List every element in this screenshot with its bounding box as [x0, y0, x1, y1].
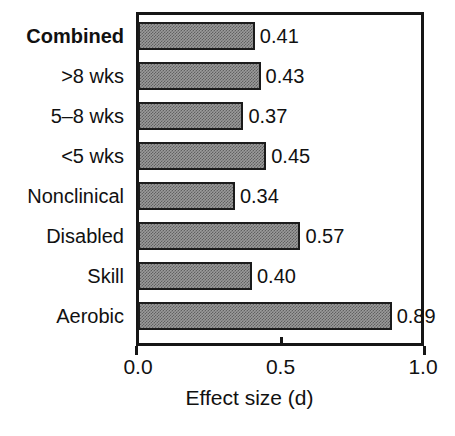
x-axis-title: Effect size (d) [0, 386, 455, 410]
bar [138, 62, 261, 90]
category-label: Skill [0, 256, 130, 296]
bars-layer: 0.410.430.370.450.340.570.400.89 [138, 14, 423, 344]
bar [138, 142, 266, 170]
bar-value-label: 0.45 [266, 142, 310, 170]
bar [138, 22, 255, 50]
bar-row: 0.40 [138, 256, 423, 296]
x-axis-title-text: Effect size (d) [142, 386, 314, 409]
bar-value-label: 0.34 [235, 182, 279, 210]
bar-row: 0.43 [138, 56, 423, 96]
bar [138, 182, 235, 210]
x-axis-tick [135, 346, 138, 355]
bar-row: 0.45 [138, 136, 423, 176]
category-label: Disabled [0, 216, 130, 256]
bar-row: 0.57 [138, 216, 423, 256]
bar-value-label: 0.40 [252, 262, 296, 290]
category-label: Nonclinical [0, 176, 130, 216]
x-axis-tick [423, 346, 426, 355]
x-axis-tick-label: 0.0 [123, 355, 152, 379]
category-label: >8 wks [0, 56, 130, 96]
bar [138, 222, 300, 250]
bar-row: 0.89 [138, 296, 423, 336]
bar-value-label: 0.57 [300, 222, 344, 250]
category-label: <5 wks [0, 136, 130, 176]
bar [138, 102, 243, 130]
bar-value-label: 0.41 [255, 22, 299, 50]
bar-chart-figure: Combined>8 wks5–8 wks<5 wksNonclinicalDi… [0, 0, 455, 436]
category-label: 5–8 wks [0, 96, 130, 136]
bar-row: 0.37 [138, 96, 423, 136]
bar [138, 302, 392, 330]
category-axis-labels: Combined>8 wks5–8 wks<5 wksNonclinicalDi… [0, 14, 130, 344]
bar-row: 0.34 [138, 176, 423, 216]
x-axis-tick [280, 337, 283, 346]
x-axis-tick-label: 1.0 [408, 355, 437, 379]
bar-value-label: 0.43 [261, 62, 305, 90]
bar-value-label: 0.37 [243, 102, 287, 130]
category-label: Combined [0, 16, 130, 56]
bar-value-label: 0.89 [392, 302, 436, 330]
x-axis-tick-label: 0.5 [266, 355, 295, 379]
category-label: Aerobic [0, 296, 130, 336]
bar-row: 0.41 [138, 16, 423, 56]
bar [138, 262, 252, 290]
